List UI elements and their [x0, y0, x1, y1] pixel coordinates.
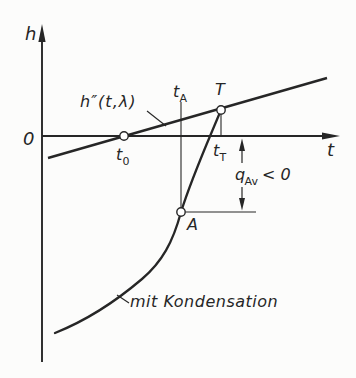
- point-t0-marker: [120, 132, 128, 140]
- saturation-line: [48, 78, 327, 158]
- arrow-up-icon: [239, 139, 245, 152]
- saturation-line-label: h″(t,λ): [80, 92, 136, 111]
- diagram-svg: h 0 t h″(t,λ) t 0 t A T t T A q Av < 0 m…: [0, 0, 356, 378]
- curve-label-leader: [117, 295, 129, 303]
- qav-subscript: Av: [245, 175, 259, 188]
- t0-label-subscript: 0: [123, 155, 130, 168]
- h-axis: [38, 24, 45, 362]
- point-T-marker: [217, 106, 225, 114]
- point-A-label: A: [186, 215, 198, 234]
- h-axis-arrow-icon: [38, 24, 45, 42]
- point-T-label: T: [215, 80, 226, 99]
- qav-relation: < 0: [262, 165, 291, 184]
- arrow-down-icon: [239, 198, 245, 211]
- x-axis-label: t: [327, 139, 335, 160]
- qav-annotation: q Av < 0: [235, 165, 291, 188]
- point-A-marker: [177, 208, 185, 216]
- y-axis-label: h: [25, 23, 36, 44]
- saturation-line-leader: [147, 111, 166, 126]
- curve-label: mit Kondensation: [130, 292, 278, 311]
- tA-label-subscript: A: [180, 92, 188, 105]
- tT-label-subscript: T: [219, 151, 227, 164]
- origin-label: 0: [23, 128, 34, 149]
- diagram-figure: h 0 t h″(t,λ) t 0 t A T t T A q Av < 0 m…: [0, 0, 356, 378]
- t-axis: [42, 132, 340, 139]
